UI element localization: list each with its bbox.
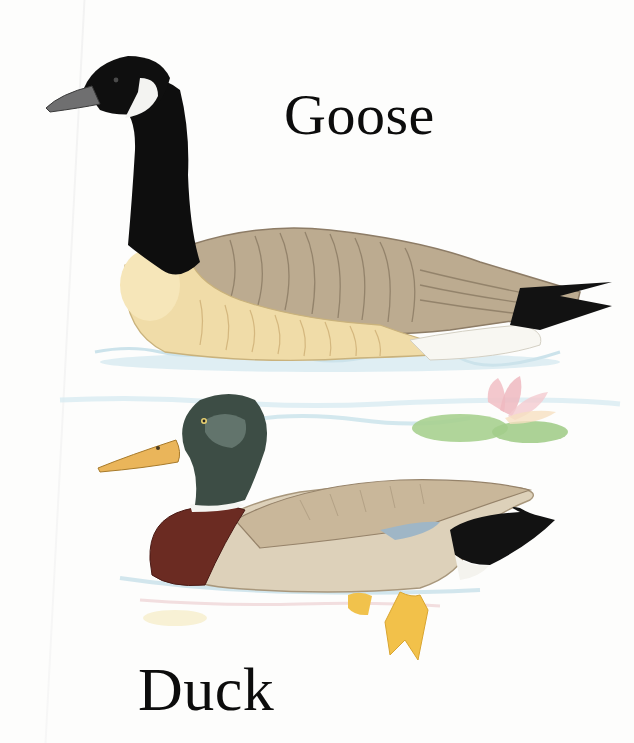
duck-label: Duck [138,658,274,720]
water-lily [412,376,568,443]
goose-label: Goose [284,86,435,144]
